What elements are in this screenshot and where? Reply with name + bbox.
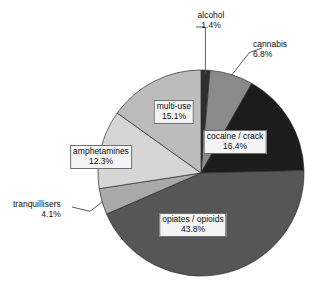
slice-label-cannabis-value: 6.8%: [253, 49, 287, 59]
slice-label-multi-use: multi-use 15.1%: [154, 100, 194, 124]
slice-label-alcohol: alcohol 1.4%: [198, 10, 225, 30]
pie-slices-group: [98, 70, 304, 276]
slice-label-alcohol-name: alcohol: [198, 10, 225, 20]
leader-line-alcohol: [196, 27, 205, 74]
slice-label-tranquillisers: tranquillisers 4.1%: [13, 199, 61, 219]
slice-label-cannabis-name: cannabis: [253, 39, 287, 49]
slice-label-opiates-opioids: opiates / opioids 43.8%: [159, 213, 226, 237]
slice-label-multi-use-value: 15.1%: [157, 112, 191, 122]
slice-label-cannabis: cannabis 6.8%: [253, 39, 287, 59]
slice-label-opiates-opioids-value: 43.8%: [162, 225, 223, 235]
pie-chart: alcohol 1.4% cannabis 6.8% tranquilliser…: [0, 0, 323, 303]
slice-label-tranquillisers-name: tranquillisers: [13, 199, 61, 209]
leader-line-tranquillisers: [72, 201, 103, 211]
slice-label-cocaine-crack-value: 16.4%: [207, 142, 264, 152]
slice-label-cocaine-crack: cocaine / crack 16.4%: [204, 130, 267, 154]
slice-label-alcohol-value: 1.4%: [198, 20, 225, 30]
slice-label-amphetamines: amphetamines 12.3%: [70, 145, 132, 169]
slice-label-tranquillisers-value: 4.1%: [13, 209, 61, 219]
slice-label-amphetamines-value: 12.3%: [73, 157, 129, 167]
